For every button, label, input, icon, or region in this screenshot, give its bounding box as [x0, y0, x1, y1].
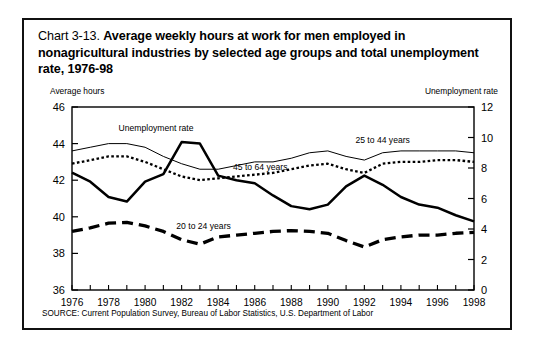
- right-axis-tick-label: 4: [481, 223, 487, 235]
- source-note: SOURCE: Current Population Survey, Burea…: [42, 309, 373, 318]
- chart-figure-border: Chart 3-13. Average weekly hours at work…: [22, 18, 512, 330]
- x-axis-tick-label: 1984: [207, 297, 230, 308]
- right-axis-tick-label: 12: [481, 101, 493, 113]
- left-axis-tick-label: 42: [53, 174, 65, 186]
- left-axis-tick-label: 46: [53, 101, 65, 113]
- right-axis-tick-label: 10: [481, 132, 493, 144]
- right-axis-tick-label: 8: [481, 162, 487, 174]
- series-label-1: 25 to 44 years: [355, 135, 409, 145]
- x-axis-tick-label: 1986: [243, 297, 266, 308]
- x-axis-tick-label: 1996: [426, 297, 449, 308]
- chart-plot-area: 3638404244460246810121976197819801982198…: [24, 20, 510, 328]
- left-axis-tick-label: 40: [53, 211, 65, 223]
- x-axis-tick-label: 1982: [170, 297, 193, 308]
- right-axis-tick-label: 6: [481, 193, 487, 205]
- left-axis-tick-label: 44: [53, 138, 65, 150]
- x-axis-tick-label: 1994: [390, 297, 413, 308]
- x-axis-tick-label: 1990: [316, 297, 339, 308]
- x-axis-tick-label: 1976: [61, 297, 84, 308]
- series-label-4: Unemployment rate: [119, 123, 194, 133]
- series-line-3: [72, 222, 474, 247]
- left-axis-tick-label: 36: [53, 284, 65, 296]
- x-axis-tick-label: 1988: [280, 297, 303, 308]
- series-label-2: 45 to 64 years: [233, 162, 287, 172]
- x-axis-tick-label: 1980: [134, 297, 157, 308]
- series-label-3: 20 to 24 years: [176, 221, 230, 231]
- right-axis-tick-label: 0: [481, 284, 487, 296]
- right-axis-tick-label: 2: [481, 254, 487, 266]
- x-axis-tick-label: 1992: [353, 297, 376, 308]
- x-axis-tick-label: 1998: [463, 297, 486, 308]
- plot-frame: [72, 107, 474, 290]
- x-axis-tick-label: 1978: [97, 297, 120, 308]
- series-line-4: [72, 142, 474, 221]
- left-axis-tick-label: 38: [53, 247, 65, 259]
